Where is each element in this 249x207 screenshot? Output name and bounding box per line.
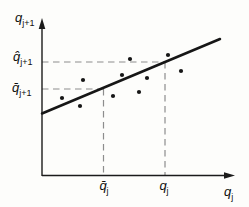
data-point bbox=[78, 104, 82, 108]
data-point bbox=[81, 78, 85, 82]
data-point bbox=[179, 69, 183, 73]
data-point bbox=[137, 90, 141, 94]
y-hat-label: q̂j+1 bbox=[13, 49, 33, 67]
x-axis-arrow-icon bbox=[224, 172, 235, 179]
x-axis bbox=[42, 172, 235, 179]
data-point bbox=[145, 76, 149, 80]
data-point bbox=[166, 53, 170, 57]
y-axis bbox=[39, 18, 46, 176]
data-point bbox=[120, 73, 124, 77]
x-axis-title: qj bbox=[224, 184, 233, 202]
scatter-figure-canvas: qj+1 q̂j+1 q̄j+1 q̄j qj qj bbox=[0, 0, 249, 207]
x-mean-label: q̄j bbox=[99, 178, 108, 196]
y-mean-label: q̄j+1 bbox=[12, 80, 32, 98]
data-point bbox=[111, 94, 115, 98]
y-axis-arrow-icon bbox=[39, 18, 46, 29]
regression-scatter-figure: qj+1 q̂j+1 q̄j+1 q̄j qj qj bbox=[0, 0, 249, 207]
x-obs-label: qj bbox=[159, 178, 168, 196]
regression-line bbox=[42, 39, 220, 114]
y-axis-title: qj+1 bbox=[15, 10, 35, 28]
data-point bbox=[128, 57, 132, 61]
data-point bbox=[60, 96, 64, 100]
